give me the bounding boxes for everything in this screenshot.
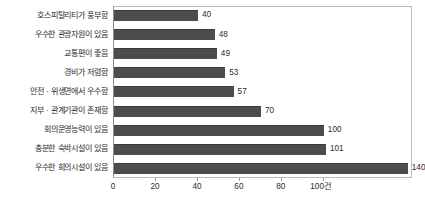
x-tick-label: 100건 bbox=[310, 183, 332, 191]
bar-and-value: 100 bbox=[114, 121, 342, 140]
bar-value-label: 70 bbox=[265, 107, 274, 115]
bar-rows-container: 호스피탈리티가 풍부함40우수한 관광자원이 있음48교통편이 좋음49경비가 … bbox=[0, 6, 417, 178]
bar-value-label: 53 bbox=[229, 69, 238, 77]
x-tick-label: 80 bbox=[276, 183, 285, 191]
bar-value-label: 40 bbox=[202, 11, 211, 19]
x-tick-label: 20 bbox=[150, 183, 159, 191]
bar-value-label: 140 bbox=[412, 164, 425, 172]
bar-value-label: 57 bbox=[238, 88, 247, 96]
x-tick-mark bbox=[239, 178, 240, 181]
category-label: 호스피탈리티가 풍부함 bbox=[4, 12, 108, 20]
category-label: 경비가 저렴함 bbox=[4, 69, 108, 77]
bar-row: 회의운영능력이 있음100 bbox=[0, 121, 417, 140]
x-tick-mark bbox=[281, 178, 282, 181]
x-axis: 020406080100건 bbox=[113, 178, 412, 203]
bar bbox=[114, 29, 215, 40]
bar-and-value: 140 bbox=[114, 159, 425, 178]
x-tick-label: 40 bbox=[192, 183, 201, 191]
bar bbox=[114, 125, 324, 136]
category-label: 회의운영능력이 있음 bbox=[4, 126, 108, 134]
category-label: 우수한 회의시설이 있음 bbox=[4, 164, 108, 172]
bar bbox=[114, 106, 261, 117]
bar-and-value: 101 bbox=[114, 140, 344, 159]
bar-row: 우수한 회의시설이 있음140 bbox=[0, 159, 417, 178]
bar-and-value: 70 bbox=[114, 102, 274, 121]
x-tick-mark bbox=[323, 178, 324, 181]
bar bbox=[114, 163, 408, 174]
category-label: 충분한 숙박시설이 있음 bbox=[4, 145, 108, 153]
category-label: 우수한 관광자원이 있음 bbox=[4, 31, 108, 39]
category-label: 교통편이 좋음 bbox=[4, 50, 108, 58]
category-label: 안전 · 위생면에서 우수함 bbox=[4, 88, 108, 96]
bar bbox=[114, 10, 198, 21]
bar-and-value: 48 bbox=[114, 25, 228, 44]
bar bbox=[114, 144, 326, 155]
bar bbox=[114, 48, 217, 59]
bar-and-value: 57 bbox=[114, 82, 247, 101]
x-tick-label: 0 bbox=[111, 183, 116, 191]
bar-row: 충분한 숙박시설이 있음101 bbox=[0, 140, 417, 159]
x-tick-mark bbox=[155, 178, 156, 181]
bar bbox=[114, 86, 234, 97]
bar-and-value: 49 bbox=[114, 44, 230, 63]
bar-value-label: 49 bbox=[221, 50, 230, 58]
bar-value-label: 48 bbox=[219, 31, 228, 39]
bar-row: 안전 · 위생면에서 우수함57 bbox=[0, 82, 417, 101]
x-tick-mark bbox=[197, 178, 198, 181]
bar-row: 지부 · 관계기관이 존재함70 bbox=[0, 102, 417, 121]
bar bbox=[114, 67, 225, 78]
bar-and-value: 53 bbox=[114, 63, 238, 82]
bar-row: 호스피탈리티가 풍부함40 bbox=[0, 6, 417, 25]
bar-row: 경비가 저렴함53 bbox=[0, 63, 417, 82]
bar-row: 우수한 관광자원이 있음48 bbox=[0, 25, 417, 44]
bar-value-label: 100 bbox=[328, 126, 342, 134]
bar-row: 교통편이 좋음49 bbox=[0, 44, 417, 63]
bar-value-label: 101 bbox=[330, 145, 344, 153]
bar-and-value: 40 bbox=[114, 6, 211, 25]
category-label: 지부 · 관계기관이 존재함 bbox=[4, 107, 108, 115]
x-tick-label: 60 bbox=[234, 183, 243, 191]
